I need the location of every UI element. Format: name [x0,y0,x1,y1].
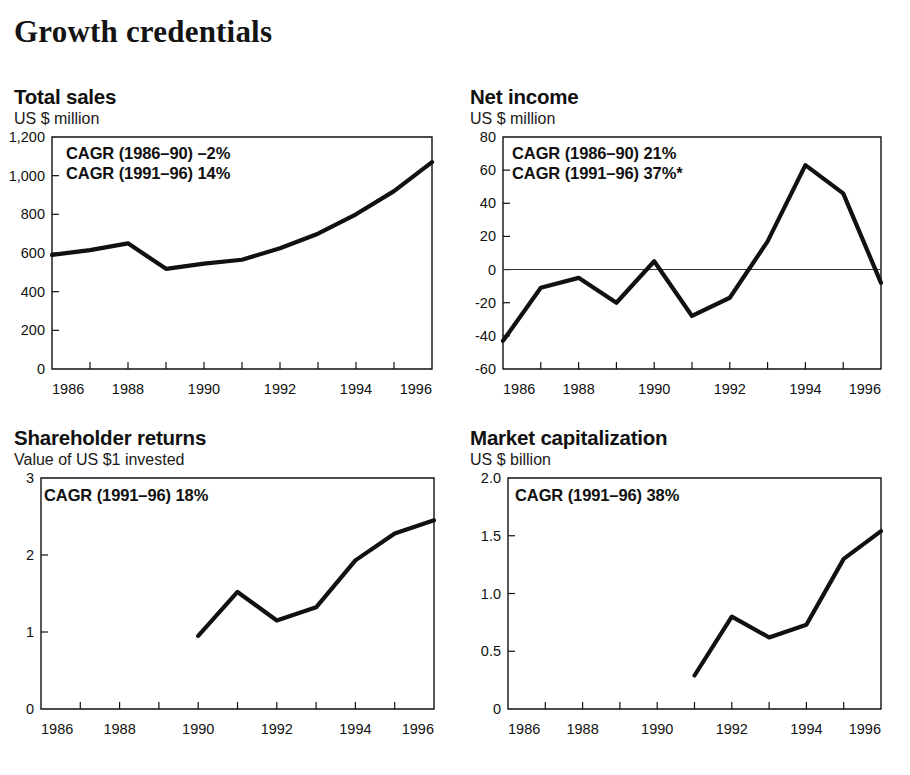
y-tick-label: 1.5 [481,528,501,544]
x-tick-label: 1988 [562,381,594,397]
chart-subtitle-market-capitalization: US $ billion [470,451,895,469]
chart-subtitle-shareholder-returns: Value of US $1 invested [14,451,448,469]
y-tick-label: 1 [26,624,34,640]
y-tick-label: 1,000 [9,168,45,184]
annotation-cagr-market-capitalization: CAGR (1991–96) 38% [515,485,679,505]
annotation-cagr-net-income: CAGR (1986–90) 21% CAGR (1991–96) 37%* [512,143,683,183]
series-line [695,531,882,675]
y-tick-label: -40 [475,328,496,344]
x-tick-label: 1994 [789,381,821,397]
x-tick-label: 1986 [41,721,73,737]
y-tick-label: 20 [480,229,496,245]
x-tick-label: 1986 [52,381,84,397]
chart-subtitle-total-sales: US $ million [14,110,446,128]
annotation-cagr-shareholder-returns: CAGR (1991–96) 18% [44,485,208,505]
y-tick-label: 800 [21,206,45,222]
chart-title-shareholder-returns: Shareholder returns [14,427,448,449]
chart-subtitle-net-income: US $ million [470,110,895,128]
x-tick-label: 1988 [566,721,598,737]
x-tick-label: 1992 [264,381,296,397]
plot-net-income: CAGR (1986–90) 21% CAGR (1991–96) 37%* -… [470,127,895,407]
page-title: Growth credentials [14,14,272,50]
y-tick-label: 60 [480,162,496,178]
x-tick-label: 1992 [716,721,748,737]
chart-panel-total-sales: Total sales US $ million CAGR (1986–90) … [14,86,446,407]
y-tick-label: 200 [21,322,45,338]
plot-total-sales: CAGR (1986–90) –2% CAGR (1991–96) 14% 02… [14,127,446,407]
x-tick-label: 1990 [638,381,670,397]
chart-svg-shareholder-returns: 0123198619881990199219941996 [14,468,448,740]
x-tick-label: 1992 [714,381,746,397]
y-tick-label: -20 [475,295,496,311]
chart-panel-net-income: Net income US $ million CAGR (1986–90) 2… [470,86,895,407]
x-tick-label: 1994 [339,721,371,737]
x-tick-label: 1990 [182,721,214,737]
y-tick-label: 2.0 [481,470,501,486]
x-tick-label: 1990 [641,721,673,737]
y-tick-label: 400 [21,284,45,300]
x-tick-label: 1988 [103,721,135,737]
y-tick-label: 3 [26,470,34,486]
y-tick-label: 1,200 [9,129,45,145]
plot-shareholder-returns: CAGR (1991–96) 18% 012319861988199019921… [14,468,448,740]
chart-panel-market-capitalization: Market capitalization US $ billion CAGR … [470,427,895,740]
y-tick-label: 0 [493,701,501,717]
x-tick-label: 1996 [849,381,881,397]
y-tick-label: 0 [37,361,45,377]
y-tick-label: 40 [480,195,496,211]
chart-title-total-sales: Total sales [14,86,446,108]
y-tick-label: -60 [475,361,496,377]
series-line [198,520,434,636]
series-line [503,165,881,341]
x-tick-label: 1992 [261,721,293,737]
y-tick-label: 600 [21,245,45,261]
y-tick-label: 0.5 [481,643,501,659]
chart-title-market-capitalization: Market capitalization [470,427,895,449]
chart-panel-shareholder-returns: Shareholder returns Value of US $1 inves… [14,427,448,740]
y-tick-label: 1.0 [481,586,501,602]
annotation-cagr-total-sales: CAGR (1986–90) –2% CAGR (1991–96) 14% [66,143,230,183]
x-tick-label: 1988 [112,381,144,397]
x-tick-label: 1994 [790,721,822,737]
figure-root: Growth credentials Total sales US $ mill… [0,0,910,775]
chart-svg-market-capitalization: 00.51.01.52.0198619881990199219941996 [470,468,895,740]
y-tick-label: 80 [480,129,496,145]
y-tick-label: 0 [488,262,496,278]
x-tick-label: 1990 [188,381,220,397]
y-tick-label: 0 [26,701,34,717]
y-tick-label: 2 [26,547,34,563]
x-tick-label: 1986 [508,721,540,737]
x-tick-label: 1996 [849,721,881,737]
x-tick-label: 1986 [503,381,535,397]
x-tick-label: 1994 [340,381,372,397]
chart-title-net-income: Net income [470,86,895,108]
x-tick-label: 1996 [400,381,432,397]
x-tick-label: 1996 [402,721,434,737]
plot-market-capitalization: CAGR (1991–96) 38% 00.51.01.52.019861988… [470,468,895,740]
